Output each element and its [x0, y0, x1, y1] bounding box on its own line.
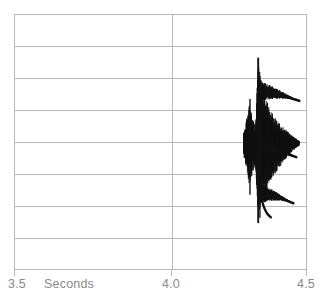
axis-tick-4-5	[306, 270, 307, 276]
axis-tick-4-0	[171, 270, 172, 276]
waveform-figure: 3.5 Seconds 4.0 4.5	[0, 0, 331, 299]
axis-tick-3-5	[14, 270, 15, 276]
plot-area[interactable]	[14, 14, 307, 270]
waveform-trace	[15, 15, 307, 270]
axis-tick-label-mid: 4.0	[162, 277, 180, 291]
axis-tick-label-start: 3.5	[8, 277, 26, 291]
axis-tick-label-end: 4.5	[297, 277, 315, 291]
x-axis-title: Seconds	[44, 277, 94, 291]
